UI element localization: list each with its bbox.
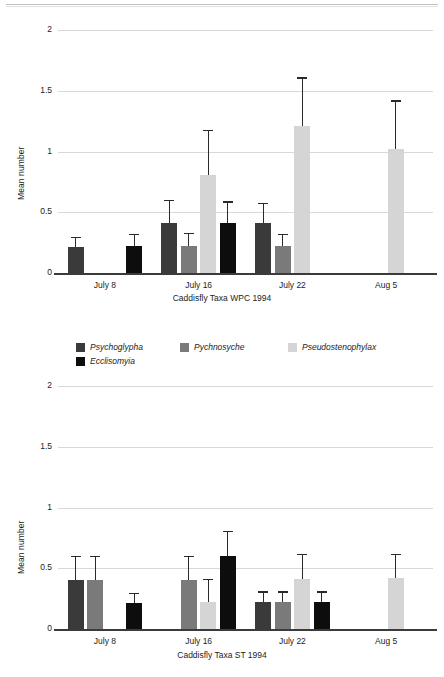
y-tick-label-1: 1 [26, 502, 52, 512]
error-bar-cap [317, 591, 327, 592]
error-bar-stem [227, 531, 228, 557]
x-tick-label-july-22: July 22 [246, 280, 340, 290]
gridline-1.5 [58, 91, 433, 92]
x-tick-label-july-8: July 8 [58, 280, 152, 290]
x-tick-label-july-8: July 8 [58, 636, 152, 646]
error-bar-stem [395, 100, 396, 149]
x-tick-label-aug-5: Aug 5 [339, 280, 433, 290]
gridline-2 [58, 386, 433, 387]
bar-pseudostenophylax-aug-5 [388, 149, 404, 273]
legend-swatch-icon-pychnosyche [180, 343, 189, 352]
error-bar-cap [71, 556, 81, 557]
y-tick-label-2: 2 [26, 380, 52, 390]
error-bar-stem [302, 554, 303, 580]
error-bar-stem [169, 200, 170, 223]
y-tick-label-1.5: 1.5 [26, 85, 52, 95]
y-tick-label-0: 0 [26, 267, 52, 277]
error-bar-cap [223, 201, 233, 202]
error-bar-cap [203, 130, 213, 131]
error-bar-stem [188, 556, 189, 580]
x-axis-line [54, 629, 437, 631]
error-bar-cap [278, 234, 288, 235]
gridline-1.5 [58, 447, 433, 448]
bar-ecclisomyia-july-22 [314, 602, 330, 629]
bar-pychnosyche-july-22 [275, 602, 291, 629]
error-bar-cap [391, 554, 401, 555]
bar-pychnosyche-july-16 [181, 246, 197, 273]
error-bar-cap [258, 591, 268, 592]
bar-psychoglypha-july-8 [68, 247, 84, 273]
legend-item-ecclisomyia[interactable]: Ecclisomyia [76, 356, 135, 366]
legend-swatch-icon-ecclisomyia [76, 357, 85, 366]
error-bar-stem [188, 233, 189, 246]
x-axis-title-top: Caddisfly Taxa WPC 1994 [0, 293, 444, 303]
gridline-1 [58, 508, 433, 509]
error-bar-cap [71, 237, 81, 238]
error-bar-cap [297, 554, 307, 555]
x-axis-line [54, 273, 437, 275]
y-tick-label-1: 1 [26, 146, 52, 156]
error-bar-cap [297, 77, 307, 78]
error-bar-stem [75, 237, 76, 248]
bar-pychnosyche-july-22 [275, 246, 291, 273]
error-bar-stem [395, 554, 396, 578]
error-bar-cap [164, 200, 174, 201]
error-bar-cap [184, 233, 194, 234]
x-tick-label-july-22: July 22 [246, 636, 340, 646]
error-bar-stem [95, 556, 96, 580]
x-tick-label-july-16: July 16 [152, 636, 246, 646]
error-bar-stem [321, 591, 322, 602]
error-bar-stem [282, 591, 283, 602]
error-bar-cap [223, 531, 233, 532]
error-bar-cap [90, 556, 100, 557]
gridline-0.5 [58, 212, 433, 213]
bar-psychoglypha-july-22 [255, 602, 271, 629]
y-tick-label-1.5: 1.5 [26, 441, 52, 451]
y-tick-label-0.5: 0.5 [26, 562, 52, 572]
bar-psychoglypha-july-16 [161, 223, 177, 273]
error-bar-stem [302, 77, 303, 126]
bar-pseudostenophylax-july-22 [294, 126, 310, 273]
chart-wpc-1994: Mean number 00.511.52July 8July 16July 2… [0, 0, 444, 320]
gridline-0.5 [58, 568, 433, 569]
y-tick-label-0.5: 0.5 [26, 206, 52, 216]
error-bar-cap [391, 100, 401, 101]
legend-item-pseudostenophylax[interactable]: Pseudostenophylax [288, 342, 376, 352]
error-bar-cap [129, 234, 139, 235]
error-bar-cap [278, 591, 288, 592]
error-bar-stem [263, 203, 264, 224]
legend-swatch-icon-psychoglypha [76, 343, 85, 352]
y-tick-label-0: 0 [26, 623, 52, 633]
bar-ecclisomyia-july-16 [220, 556, 236, 629]
error-bar-cap [258, 203, 268, 204]
legend: PsychoglyphaPychnosychePseudostenophylax… [0, 340, 444, 374]
bar-psychoglypha-july-22 [255, 223, 271, 273]
bar-pseudostenophylax-aug-5 [388, 578, 404, 629]
legend-item-psychoglypha[interactable]: Psychoglypha [76, 342, 143, 352]
plot-area-st: 00.511.52July 8July 16July 22Aug 5 [58, 386, 433, 629]
bar-pychnosyche-july-16 [181, 580, 197, 629]
legend-item-pychnosyche[interactable]: Pychnosyche [180, 342, 245, 352]
error-bar-stem [134, 593, 135, 604]
error-bar-stem [134, 234, 135, 246]
error-bar-stem [227, 201, 228, 223]
legend-label-pychnosyche: Pychnosyche [194, 342, 245, 352]
error-bar-stem [75, 556, 76, 580]
x-tick-label-july-16: July 16 [152, 280, 246, 290]
error-bar-cap [184, 556, 194, 557]
bar-ecclisomyia-july-8 [126, 603, 142, 629]
legend-label-ecclisomyia: Ecclisomyia [90, 356, 135, 366]
chart-st-1994: Mean number 00.511.52July 8July 16July 2… [0, 378, 444, 677]
legend-label-pseudostenophylax: Pseudostenophylax [302, 342, 376, 352]
bar-pseudostenophylax-july-22 [294, 579, 310, 629]
error-bar-stem [282, 234, 283, 246]
bar-pseudostenophylax-july-16 [200, 602, 216, 629]
bar-ecclisomyia-july-16 [220, 223, 236, 273]
y-axis-label-bottom: Mean number [16, 520, 26, 574]
bar-pseudostenophylax-july-16 [200, 175, 216, 273]
x-tick-label-aug-5: Aug 5 [339, 636, 433, 646]
error-bar-stem [263, 591, 264, 602]
bar-pychnosyche-july-8 [87, 580, 103, 629]
legend-swatch-icon-pseudostenophylax [288, 343, 297, 352]
error-bar-stem [208, 579, 209, 602]
